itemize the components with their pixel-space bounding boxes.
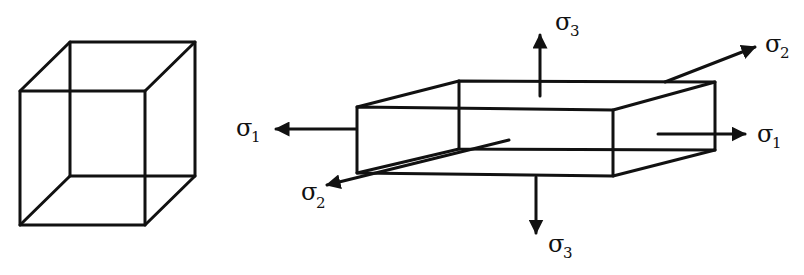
sigma2-bottom-label: σ 2 [301, 178, 326, 212]
svg-text:2: 2 [316, 194, 326, 212]
sigma3-top-label: σ 3 [555, 8, 580, 40]
svg-text:2: 2 [780, 44, 790, 62]
svg-text:σ: σ [555, 8, 571, 36]
unstressed-cube [20, 42, 195, 225]
sigma2-top-arrow [665, 47, 755, 82]
svg-text:3: 3 [563, 244, 573, 262]
svg-text:σ: σ [301, 178, 317, 206]
svg-text:σ: σ [757, 120, 773, 148]
stress-diagram: σ 1 σ 1 σ 2 σ 2 σ 3 σ 3 [0, 0, 804, 275]
svg-text:σ: σ [548, 230, 564, 258]
svg-text:1: 1 [251, 128, 261, 146]
svg-text:1: 1 [772, 134, 782, 152]
sigma1-right-label: σ 1 [757, 120, 782, 152]
sigma1-left-label: σ 1 [236, 114, 261, 146]
sigma2-top-label: σ 2 [765, 30, 790, 62]
sigma3-bottom-label: σ 3 [548, 230, 573, 262]
svg-text:3: 3 [570, 22, 580, 40]
sigma2-bottom-arrow [327, 140, 509, 185]
stressed-box [357, 81, 715, 176]
svg-text:σ: σ [236, 114, 252, 142]
svg-text:σ: σ [765, 30, 781, 58]
